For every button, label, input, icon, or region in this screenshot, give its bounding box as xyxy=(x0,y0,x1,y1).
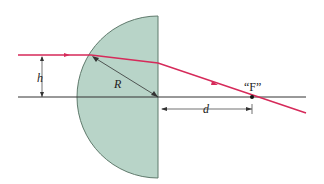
distance-arrowhead-right-icon xyxy=(246,107,252,111)
height-label: h xyxy=(37,72,43,84)
distance-label: d xyxy=(203,103,209,115)
focus-label: “F” xyxy=(244,81,261,93)
radius-label: R xyxy=(114,78,121,90)
height-arrowhead-bottom-icon xyxy=(40,92,44,97)
light-ray xyxy=(18,55,306,113)
height-arrowhead-icon xyxy=(40,56,44,61)
focal-point xyxy=(250,95,254,99)
ray-arrow-icon xyxy=(64,53,70,57)
diagram-canvas xyxy=(0,0,324,184)
distance-arrowhead-left-icon xyxy=(161,107,167,111)
